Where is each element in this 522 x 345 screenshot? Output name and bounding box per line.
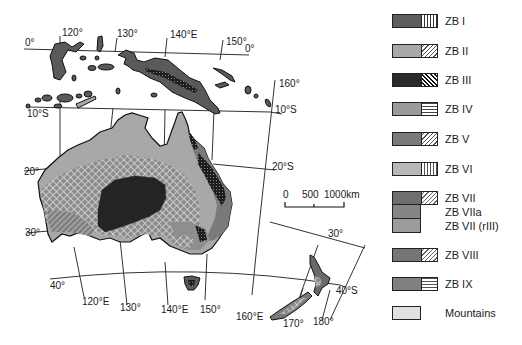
- new-guinea: [118, 50, 220, 114]
- legend-item-zb2: ZB II: [392, 43, 468, 59]
- legend-swatch-zb1: [392, 14, 438, 28]
- legend-label-zb7: ZB VII: [445, 192, 476, 204]
- legend-swatch-zb6: [392, 162, 438, 176]
- legend-item-zb8: ZB VIII: [392, 247, 479, 263]
- lon-label-130-top: 130°: [117, 28, 138, 39]
- lat-label-40s-right: 40°S: [336, 285, 358, 296]
- lon-label-130-bottom: 130°: [120, 302, 141, 313]
- lon-label-150-bottom: 150°: [200, 304, 221, 315]
- legend-item-mountains: Mountains: [392, 305, 496, 321]
- legend-label-zb7r: ZB VII (rIII): [445, 220, 499, 232]
- lon-label-160e-bottom: 160°E: [236, 311, 264, 322]
- legend-item-zb7r: ZB VII (rIII): [392, 218, 499, 234]
- legend-swatch-zb4: [392, 102, 438, 116]
- legend-item-zb4: ZB IV: [392, 101, 473, 117]
- lon-label-120e-bottom: 120°E: [82, 296, 110, 307]
- lat-label-20s-right: 20°S: [272, 161, 294, 172]
- legend-swatch-zb8: [392, 248, 438, 262]
- legend-swatch-zb7r: [392, 218, 421, 233]
- lat-label-30-right: 30°: [328, 228, 343, 239]
- legend-label-mountains: Mountains: [445, 307, 496, 319]
- scale-label-0: 0: [283, 189, 289, 200]
- legend-item-zb1: ZB I: [392, 13, 465, 29]
- lon-label-160-right: 160°: [279, 78, 300, 89]
- lon-label-150-top: 150°: [226, 36, 247, 47]
- legend-item-zb9: ZB IX: [392, 276, 473, 292]
- lon-label-170-bottom: 170°: [283, 318, 304, 329]
- legend-label-zb8: ZB VIII: [445, 249, 479, 261]
- nz-north-island: [310, 255, 330, 296]
- lat-label-30-left: 30°: [25, 227, 40, 238]
- legend-label-zb9: ZB IX: [445, 278, 473, 290]
- lat-label-40-left: 40°: [50, 280, 65, 291]
- legend-swatch-zb9: [392, 277, 438, 291]
- legend-label-zb1: ZB I: [445, 15, 465, 27]
- lat-label-0-left: 0°: [25, 37, 35, 48]
- lon-label-180-bottom: 180°: [313, 316, 334, 327]
- scale-label-500: 500: [302, 189, 319, 200]
- legend-label-zb3: ZB III: [445, 74, 471, 86]
- legend-label-zb2: ZB II: [445, 45, 468, 57]
- lon-label-140-top: 140°E: [170, 29, 198, 40]
- scale-label-1000: 1000km: [324, 189, 360, 200]
- legend-label-zb7a: ZB VIIa: [445, 206, 482, 218]
- lat-label-0-right: 0°: [245, 43, 255, 54]
- legend-swatch-zb5: [392, 132, 438, 146]
- legend-item-zb3: ZB III: [392, 72, 471, 88]
- legend-label-zb4: ZB IV: [445, 103, 473, 115]
- legend-swatch-zb3: [392, 73, 438, 87]
- legend-swatch-zb7a: [392, 204, 421, 219]
- lon-label-140e-bottom: 140°E: [161, 304, 189, 315]
- legend-label-zb5: ZB V: [445, 133, 469, 145]
- lat-label-10s-left: 10°S: [27, 108, 49, 119]
- lat-label-20-left: 20°: [24, 166, 39, 177]
- lat-label-10s-right: 10°S: [275, 104, 297, 115]
- legend-swatch-mountains: [392, 306, 421, 320]
- legend-label-zb6: ZB VI: [445, 163, 473, 175]
- scale-bar: [285, 202, 344, 207]
- legend-swatch-zb2: [392, 44, 438, 58]
- legend-swatch-zb7: [392, 191, 438, 205]
- legend-item-zb6: ZB VI: [392, 161, 473, 177]
- lon-label-120-top: 120°: [62, 27, 83, 38]
- legend: ZB I ZB II ZB III ZB IV ZB V ZB VI ZB VI…: [392, 0, 522, 345]
- legend-item-zb5: ZB V: [392, 131, 469, 147]
